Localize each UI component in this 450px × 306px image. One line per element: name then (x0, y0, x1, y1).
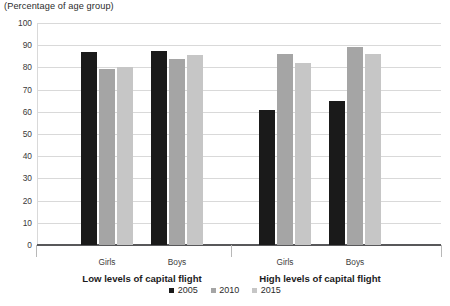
bar-chart: (Percentage of age group) 10090807060504… (0, 0, 450, 306)
y-axis-tick-label: 10 (6, 219, 32, 227)
y-axis-tick-label: 30 (6, 174, 32, 182)
bar-2005-Boys-g1 (151, 51, 167, 245)
chart-legend: 200520102015 (0, 286, 450, 295)
chart-axis-unit-title: (Percentage of age group) (4, 1, 114, 11)
legend-swatch-icon (252, 288, 257, 293)
y-axis-tick-label: 40 (6, 152, 32, 160)
legend-item-2005[interactable]: 2005 (169, 286, 198, 295)
bar-2010-Boys-g1 (169, 59, 185, 245)
bar-2015-Girls-g1 (117, 67, 133, 245)
y-axis-tick-label: 60 (6, 108, 32, 116)
bar-2015-Boys-g2 (365, 54, 381, 245)
group-separator-tick (36, 245, 37, 257)
group-label-high: High levels of capital flight (210, 273, 430, 284)
y-axis-tick-label: 90 (6, 41, 32, 49)
category-label-high-girls: Girls (245, 257, 325, 267)
group-separator-tick (231, 245, 232, 257)
y-axis-tick-label: 70 (6, 86, 32, 94)
y-axis-tick-label: 50 (6, 130, 32, 138)
category-label-low-girls: Girls (67, 257, 147, 267)
bar-2010-Girls-g1 (99, 69, 115, 245)
bar-2005-Girls-g2 (259, 110, 275, 245)
category-label-low-boys: Boys (137, 257, 217, 267)
legend-item-2010[interactable]: 2010 (211, 286, 240, 295)
y-axis-tick-labels: 1009080706050403020100 (5, 23, 32, 245)
legend-item-2015[interactable]: 2015 (252, 286, 281, 295)
y-axis-tick-label: 100 (6, 19, 32, 27)
legend-swatch-icon (169, 288, 174, 293)
legend-swatch-icon (211, 288, 216, 293)
group-separator-tick (441, 245, 442, 257)
bar-2005-Boys-g2 (329, 101, 345, 245)
y-axis-tick-label: 80 (6, 63, 32, 71)
category-label-high-boys: Boys (315, 257, 395, 267)
bar-2010-Boys-g2 (347, 47, 363, 245)
bar-2005-Girls-g1 (81, 52, 97, 245)
gridline (37, 45, 441, 46)
bar-2015-Boys-g1 (187, 55, 203, 245)
gridline (37, 23, 441, 24)
legend-label: 2010 (219, 286, 239, 295)
bar-2010-Girls-g2 (277, 54, 293, 245)
bar-2015-Girls-g2 (295, 63, 311, 245)
legend-label: 2015 (261, 286, 281, 295)
legend-label: 2005 (178, 286, 198, 295)
y-axis-tick-label: 0 (6, 241, 32, 249)
plot-area (37, 23, 441, 245)
y-axis-tick-label: 20 (6, 197, 32, 205)
